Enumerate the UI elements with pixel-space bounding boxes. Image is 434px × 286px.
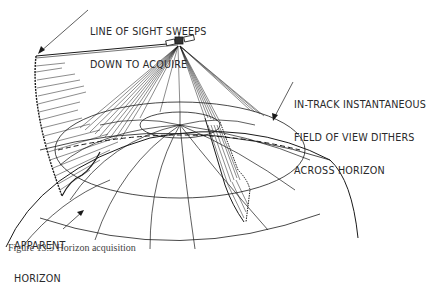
- arrowhead-los-icon: [38, 46, 45, 54]
- figure-caption: Figure 13.5 Horizon acquisition: [8, 242, 136, 253]
- line-of-sight-label-line-2: DOWN TO ACQUIRE: [90, 59, 207, 70]
- field-of-view-label: IN-TRACK INSTANTANEOUS FIELD OF VIEW DIT…: [294, 77, 426, 198]
- field-of-view-label-line-1: IN-TRACK INSTANTANEOUS: [294, 99, 426, 110]
- line-of-sight-label-line-1: LINE OF SIGHT SWEEPS: [90, 26, 207, 37]
- field-of-view-label-line-2: FIELD OF VIEW DITHERS: [294, 132, 426, 143]
- apparent-horizon-label-line-2: HORIZON: [14, 273, 65, 284]
- line-of-sight-label: LINE OF SIGHT SWEEPS DOWN TO ACQUIRE: [90, 4, 207, 92]
- field-of-view-label-line-3: ACROSS HORIZON: [294, 165, 426, 176]
